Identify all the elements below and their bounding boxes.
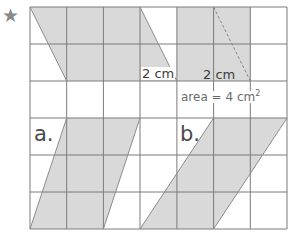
dimension-label-2: 2 cm bbox=[203, 68, 235, 81]
dimension-label-1: 2 cm bbox=[141, 67, 175, 80]
area-label: area = 4 cm2 bbox=[180, 91, 261, 103]
part-a-label: a. bbox=[34, 124, 54, 145]
part-b-label: b. bbox=[180, 124, 200, 145]
grid-diagram bbox=[0, 0, 293, 239]
area-text: area = 4 cm bbox=[181, 90, 255, 104]
area-exponent: 2 bbox=[255, 89, 260, 98]
